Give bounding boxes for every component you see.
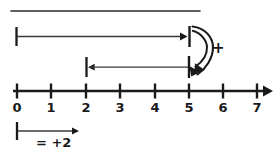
tick-label-4: 4: [146, 101, 164, 115]
legend-label: = +2: [36, 136, 71, 150]
legend-arrowhead: [72, 128, 79, 135]
tick-label-7: 7: [248, 101, 266, 115]
number-line-arrowhead: [263, 86, 273, 97]
upper-jump-arrow: [17, 26, 190, 47]
diagram-page: 0 1 2 3 4 5 6 7 + = +2: [0, 0, 280, 155]
plus-sign-label: +: [212, 41, 225, 55]
lower-jump-arrow: [87, 56, 190, 78]
upper-jump-arrowhead: [180, 33, 188, 41]
tick-label-5: 5: [180, 101, 198, 115]
tick-label-0: 0: [8, 101, 26, 115]
tick-label-3: 3: [111, 101, 129, 115]
curved-hook-arrow: [189, 27, 213, 77]
tick-label-2: 2: [77, 101, 95, 115]
tick-label-6: 6: [214, 101, 232, 115]
number-line-diagram-canvas: [0, 0, 280, 155]
curved-hook-arrow-inner-stroke: [193, 31, 207, 67]
number-line: [13, 84, 273, 99]
tick-label-1: 1: [42, 101, 60, 115]
